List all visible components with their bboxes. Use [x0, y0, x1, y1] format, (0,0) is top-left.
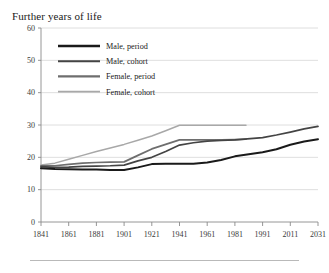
svg-text:2031: 2031	[310, 230, 326, 239]
y-axis	[38, 28, 41, 222]
svg-text:1981: 1981	[227, 230, 243, 239]
svg-text:10: 10	[27, 185, 35, 194]
svg-text:2011: 2011	[282, 230, 298, 239]
legend-label: Female, cohort	[106, 88, 156, 97]
svg-text:1841: 1841	[33, 230, 49, 239]
svg-text:1921: 1921	[144, 230, 160, 239]
svg-text:1991: 1991	[255, 230, 271, 239]
chart-legend: Male, periodMale, cohortFemale, periodFe…	[58, 42, 156, 97]
figure-container: Further years of life 0102030405060 1841…	[0, 0, 329, 273]
legend-label: Female, period	[106, 72, 155, 81]
svg-text:1861: 1861	[61, 230, 77, 239]
svg-text:30: 30	[27, 121, 35, 130]
series-line	[41, 139, 318, 170]
svg-text:1941: 1941	[172, 230, 188, 239]
svg-text:1881: 1881	[88, 230, 104, 239]
svg-text:0: 0	[31, 218, 35, 227]
x-axis	[41, 222, 318, 226]
line-chart-svg: 0102030405060 18411861188119011921194119…	[0, 22, 329, 250]
data-series-group	[41, 125, 318, 170]
svg-text:50: 50	[27, 56, 35, 65]
svg-text:1961: 1961	[199, 230, 215, 239]
legend-label: Male, cohort	[106, 57, 149, 66]
gridlines	[41, 28, 318, 190]
svg-text:20: 20	[27, 153, 35, 162]
footer-divider	[30, 260, 299, 261]
page-title: Further years of life	[12, 10, 102, 22]
y-tick-labels: 0102030405060	[27, 24, 35, 227]
svg-text:40: 40	[27, 88, 35, 97]
svg-text:60: 60	[27, 24, 35, 33]
series-line	[41, 126, 318, 167]
plot-area: 0102030405060 18411861188119011921194119…	[0, 22, 329, 250]
x-tick-labels: 1841186118811901192119411961198119912011…	[33, 230, 326, 239]
svg-text:1901: 1901	[116, 230, 132, 239]
legend-label: Male, period	[106, 42, 148, 51]
